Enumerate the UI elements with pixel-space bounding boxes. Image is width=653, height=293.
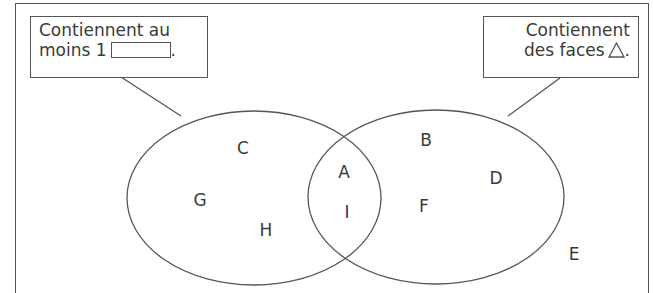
element-B: B — [420, 130, 432, 150]
element-D: D — [489, 168, 502, 188]
element-G: G — [193, 190, 206, 210]
right-callout-connector — [508, 78, 560, 116]
callout-right-line1: Contiennent — [484, 20, 630, 40]
callout-right-line2-text: des faces — [524, 40, 605, 60]
element-H: H — [260, 220, 273, 240]
callout-left-line2: moins 1. — [39, 40, 207, 60]
left-callout-connector — [121, 77, 181, 116]
callout-left-set: Contiennent au moins 1. — [30, 16, 208, 78]
element-E: E — [569, 244, 580, 264]
callout-left-line2-text: moins 1 — [39, 40, 107, 60]
element-A: A — [338, 162, 350, 182]
rectangle-icon — [111, 42, 171, 58]
callout-right-set: Contiennent des faces. — [483, 16, 639, 78]
callout-left-line1: Contiennent au — [39, 20, 207, 40]
triangle-icon — [608, 42, 625, 62]
callout-right-period: . — [625, 40, 630, 60]
callout-left-period: . — [171, 40, 176, 60]
element-I: I — [344, 202, 349, 222]
element-C: C — [237, 138, 249, 158]
callout-right-line2: des faces. — [484, 40, 630, 62]
element-F: F — [419, 196, 429, 216]
